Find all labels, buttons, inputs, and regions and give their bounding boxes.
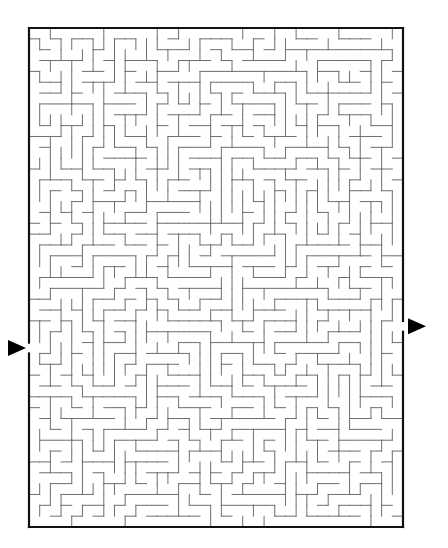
entrance-arrow-icon	[8, 340, 26, 356]
maze-walls	[29, 28, 403, 527]
exit-arrow-icon	[408, 318, 426, 334]
maze-board[interactable]	[0, 0, 448, 548]
